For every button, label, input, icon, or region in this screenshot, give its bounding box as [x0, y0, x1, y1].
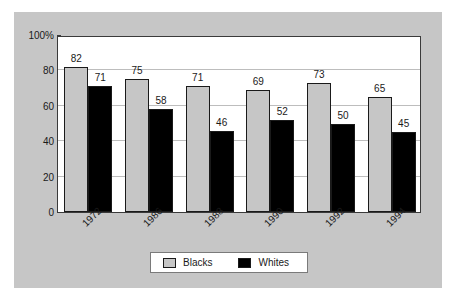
bar-value-label: 58 — [141, 96, 181, 106]
y-tick-label: 0 — [16, 208, 54, 218]
legend-swatch-blacks — [163, 258, 176, 268]
gridline — [58, 69, 420, 70]
bar-value-label: 82 — [56, 54, 96, 64]
legend-item-whites: Whites — [238, 258, 289, 268]
bar-whites-1992 — [331, 124, 355, 213]
y-axis-labels: 020406080100% — [14, 36, 54, 213]
bar-whites-1972 — [88, 86, 112, 212]
legend-label-whites: Whites — [258, 258, 289, 268]
bar-whites-1988 — [210, 131, 234, 212]
bar-value-label: 46 — [202, 118, 242, 128]
y-tick-label: 60 — [16, 102, 54, 112]
bar-value-label: 65 — [360, 84, 400, 94]
bar-value-label: 71 — [80, 73, 120, 83]
bar-blacks-1992 — [307, 83, 331, 212]
y-tick-label: 100% — [16, 31, 54, 41]
bar-value-label: 75 — [117, 66, 157, 76]
y-tick-label: 40 — [16, 137, 54, 147]
chart-legend: Blacks Whites — [150, 252, 308, 273]
bar-whites-1990 — [270, 120, 294, 212]
y-tick-label: 80 — [16, 66, 54, 76]
legend-item-blacks: Blacks — [163, 258, 212, 268]
bar-blacks-1972 — [64, 67, 88, 212]
bar-blacks-1994 — [368, 97, 392, 212]
legend-swatch-whites — [238, 258, 251, 268]
bar-value-label: 71 — [178, 73, 218, 83]
bar-value-label: 69 — [238, 77, 278, 87]
bar-value-label: 50 — [323, 111, 363, 121]
legend-label-blacks: Blacks — [183, 258, 212, 268]
bar-value-label: 52 — [262, 107, 302, 117]
y-tick-label: 20 — [16, 173, 54, 183]
bar-whites-1994 — [392, 132, 416, 212]
bar-blacks-1988 — [186, 86, 210, 212]
bar-whites-1986 — [149, 109, 173, 212]
bar-value-label: 45 — [384, 119, 424, 129]
chart-panel: 020406080100% 827175587146695273506545 1… — [14, 12, 442, 288]
bar-value-label: 73 — [299, 70, 339, 80]
plot-area: 827175587146695273506545 — [57, 36, 421, 213]
plot-inner: 827175587146695273506545 — [58, 37, 420, 212]
